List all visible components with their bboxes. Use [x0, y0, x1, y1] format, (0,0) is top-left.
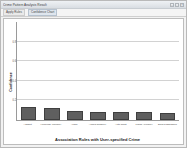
- bar-column: [156, 22, 179, 120]
- x-axis-tick-label: Auto Theft: [109, 123, 132, 126]
- plot-wrapper: Confidence 0.20.40.60.8 AssaultHomicide …: [4, 19, 183, 144]
- bar[interactable]: [67, 111, 83, 120]
- application-window: Crime Pattern Analysis Result – □ × Appl…: [0, 0, 187, 148]
- grid-line: 0.8: [17, 41, 179, 42]
- x-axis-tick-label: Armed Robbery: [86, 123, 109, 126]
- y-axis-tick-label: 0.6: [13, 60, 17, 63]
- minimize-icon[interactable]: –: [170, 3, 174, 7]
- grid-line: 0.4: [17, 80, 179, 81]
- x-axis-tick-labels: AssaultHomicide (Murder)ArsonArmed Robbe…: [16, 123, 179, 132]
- x-axis-title: Association Rules with User-specified Cr…: [16, 137, 179, 142]
- grid-line: 0.2: [17, 99, 179, 100]
- x-axis-tick-label: Homicide (Murder): [39, 123, 62, 126]
- bar[interactable]: [113, 112, 129, 120]
- menu-item-confidence-chart[interactable]: Confidence Chart: [28, 9, 57, 17]
- bar[interactable]: [90, 112, 106, 120]
- menu-bar: Apply Rules Confidence Chart: [1, 9, 186, 17]
- bar-column: [86, 22, 109, 120]
- grid-line: 0.6: [17, 60, 179, 61]
- menu-item-apply-rules[interactable]: Apply Rules: [3, 9, 25, 17]
- maximize-icon[interactable]: □: [175, 3, 179, 7]
- bar[interactable]: [160, 113, 176, 120]
- x-axis-tick-label: Drug Possession: [156, 123, 179, 126]
- bar-series: [17, 22, 179, 120]
- bar[interactable]: [136, 112, 152, 120]
- plot-area: 0.20.40.60.8: [16, 22, 179, 121]
- window-controls: – □ ×: [170, 3, 184, 7]
- window-title: Crime Pattern Analysis Result: [3, 3, 170, 7]
- y-axis-tick-label: 0.2: [13, 99, 17, 102]
- bar[interactable]: [21, 107, 37, 120]
- bar-column: [63, 22, 86, 120]
- y-axis-tick-label: 0.4: [13, 79, 17, 82]
- bar-column: [17, 22, 40, 120]
- x-axis-tick-label: Assault: [16, 123, 39, 126]
- bar-column: [110, 22, 133, 120]
- x-axis-tick-label: Arson: [63, 123, 86, 126]
- chart-panel: Confidence 0.20.40.60.8 AssaultHomicide …: [3, 18, 184, 145]
- bar[interactable]: [44, 108, 60, 120]
- bar-column: [40, 22, 63, 120]
- x-axis-tick-label: Fraud / Forgery: [132, 123, 155, 126]
- y-axis-tick-label: 0.8: [13, 40, 17, 43]
- close-icon[interactable]: ×: [180, 3, 184, 7]
- bar-column: [133, 22, 156, 120]
